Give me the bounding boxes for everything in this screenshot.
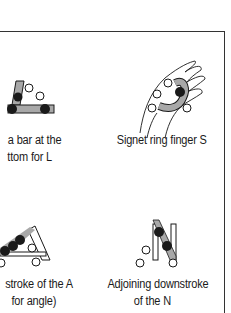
- figure-S-caption-line1: Signet ring finger S: [117, 132, 216, 149]
- figure-A-caption-line2: for angle): [11, 293, 62, 310]
- figure-N-caption-line2: of the N: [134, 293, 190, 310]
- hand-sign-L-icon: [0, 75, 60, 120]
- hand-sign-A-icon: [0, 218, 55, 268]
- figure-L-caption-line1: a bar at the: [8, 132, 64, 149]
- hand-sign-S-icon: [135, 58, 215, 143]
- figure-A-caption-line1: stroke of the A: [5, 276, 81, 293]
- figure-L-caption-line2: ttom for L: [7, 149, 56, 166]
- hand-sign-N-icon: [135, 218, 190, 268]
- frame-top-border: [0, 31, 225, 32]
- figure-N-caption-line1: Adjoining downstroke: [107, 276, 216, 293]
- frame-right-border: [224, 31, 225, 313]
